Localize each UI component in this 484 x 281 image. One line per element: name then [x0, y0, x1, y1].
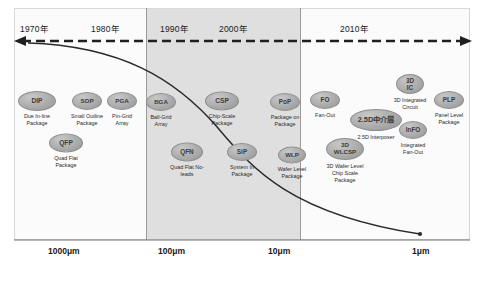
package-node-abbr-info: InFO	[399, 121, 427, 139]
package-node-abbr-3d-wlcsp: 3DWLCSP	[326, 138, 364, 160]
package-node-abbr-dip: DIP	[18, 91, 56, 111]
packaging-roadmap-diagram: 1970年 1980年 1990年 2000年 2010年 1000μm 100…	[0, 0, 484, 281]
package-node-3d-wlcsp[interactable]: 3DWLCSP	[326, 138, 364, 160]
package-node-caption-wlp: Wafer LevelPackage	[278, 166, 307, 180]
package-node-abbr-bga: BGA	[146, 93, 176, 111]
package-node-caption-sip: System InPackage	[230, 164, 254, 178]
package-node-abbr-csp: CSP	[205, 92, 239, 111]
year-label-2010: 2010年	[340, 22, 369, 34]
package-node-2.5d中介层[interactable]: 2.5D中介层	[350, 109, 402, 131]
package-node-caption-sop: Small OutlinePackage	[71, 113, 103, 127]
year-label-2000: 2000年	[219, 22, 248, 34]
package-node-caption-qfp: Quad FlatPackage	[54, 155, 78, 169]
package-node-abbr-2.5d中介层: 2.5D中介层	[350, 109, 402, 131]
package-node-abbr-fo: FO	[310, 91, 340, 109]
package-node-abbr-plp: PLP	[434, 91, 464, 109]
package-node-caption-dip: Due In-linePackage	[24, 113, 50, 127]
package-node-abbr-sip: SiP	[227, 143, 257, 161]
package-node-wlp[interactable]: WLP	[278, 147, 306, 164]
package-node-abbr-qfn: QFN	[171, 143, 203, 162]
package-node-fo[interactable]: FO	[310, 91, 340, 109]
package-node-info[interactable]: InFO	[399, 121, 427, 139]
package-node-3d-ic[interactable]: 3DIC	[396, 74, 424, 94]
package-node-dip[interactable]: DIP	[18, 91, 56, 111]
package-node-caption-info: IntegratedFan-Out	[401, 142, 425, 156]
package-node-qfn[interactable]: QFN	[171, 143, 203, 162]
axis-tick-1um: 1μm	[412, 246, 430, 256]
package-node-caption-3d-wlcsp: 3D Wafer LevelChip ScalePackage	[327, 163, 364, 184]
package-node-abbr-wlp: WLP	[278, 147, 306, 164]
package-node-caption-pop: Package onPackage	[271, 114, 299, 128]
package-node-pop[interactable]: PoP	[270, 93, 300, 111]
package-node-bga[interactable]: BGA	[146, 93, 176, 111]
package-node-sop[interactable]: SOP	[72, 92, 102, 110]
package-node-qfp[interactable]: QFP	[49, 134, 83, 153]
package-node-csp[interactable]: CSP	[205, 92, 239, 111]
package-node-caption-2.5d中介层: 2.5D Interposer	[357, 134, 394, 141]
package-node-abbr-qfp: QFP	[49, 134, 83, 153]
year-label-1980: 1980年	[91, 22, 120, 34]
axis-tick-100um: 100μm	[158, 246, 185, 256]
package-node-plp[interactable]: PLP	[434, 91, 464, 109]
package-node-sip[interactable]: SiP	[227, 143, 257, 161]
package-node-caption-3d-ic: 3D IntegratedCircuit	[394, 97, 427, 111]
package-node-abbr-sop: SOP	[72, 92, 102, 110]
package-node-caption-fo: Fan-Out	[315, 112, 335, 119]
package-node-pga[interactable]: PGA	[107, 92, 137, 110]
year-label-1990: 1990年	[160, 22, 189, 34]
year-label-1970: 1970年	[20, 22, 49, 34]
package-node-caption-csp: Chip-ScalePackage	[209, 113, 235, 127]
package-node-caption-qfn: Quad Flat No-leads	[170, 164, 204, 178]
package-node-abbr-pop: PoP	[270, 93, 300, 111]
package-node-caption-pga: Pin-GridArray	[112, 113, 132, 127]
package-node-abbr-3d-ic: 3DIC	[396, 74, 424, 94]
curve-end-point	[418, 232, 422, 236]
package-node-abbr-pga: PGA	[107, 92, 137, 110]
axis-tick-10um: 10μm	[268, 246, 290, 256]
package-node-caption-plp: Panel LevelPackage	[435, 112, 463, 126]
package-node-caption-bga: Ball-GridArray	[151, 114, 172, 128]
axis-tick-1000um: 1000μm	[48, 246, 80, 256]
